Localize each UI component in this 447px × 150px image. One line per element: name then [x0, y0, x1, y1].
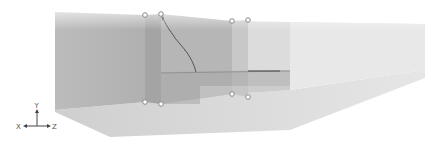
handle-bottom-right-b[interactable] — [246, 95, 251, 100]
3d-viewport[interactable]: Y X Z — [0, 0, 447, 150]
handle-bottom-left-b[interactable] — [159, 102, 164, 107]
handle-top-right-b[interactable] — [246, 18, 251, 23]
z-axis-label: Z — [52, 123, 57, 131]
z-axis-arrow-icon — [47, 124, 51, 128]
scene-canvas[interactable]: Y X Z — [0, 0, 447, 150]
axis-triad: Y X Z — [16, 102, 57, 131]
handle-top-left-b[interactable] — [159, 12, 164, 17]
handle-top-right-a[interactable] — [230, 19, 235, 24]
top-fade — [0, 0, 447, 30]
y-axis-label: Y — [34, 102, 40, 110]
handle-bottom-left-a[interactable] — [143, 100, 148, 105]
x-axis-label: X — [16, 123, 21, 131]
handle-top-left-a[interactable] — [143, 13, 148, 18]
handle-bottom-right-a[interactable] — [230, 92, 235, 97]
x-axis-arrow-icon — [23, 124, 27, 128]
